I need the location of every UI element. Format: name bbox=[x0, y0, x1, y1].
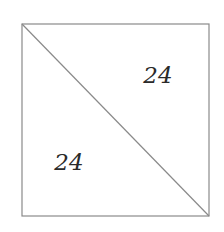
lower-left-triangle-label: 24 bbox=[53, 149, 83, 175]
upper-right-triangle-label: 24 bbox=[142, 62, 172, 88]
diagonal-line bbox=[22, 24, 209, 216]
square-diagram: 24 24 bbox=[0, 0, 224, 232]
